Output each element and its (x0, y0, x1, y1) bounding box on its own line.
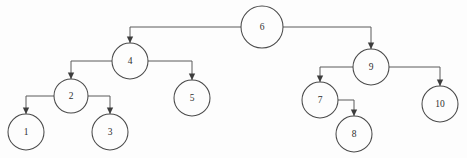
tree-diagram: 64925710138 (0, 0, 467, 158)
arrow-head-icon (189, 74, 195, 81)
tree-edge (283, 27, 374, 49)
arrow-head-icon (23, 108, 29, 115)
edge-line (26, 96, 54, 114)
tree-diagram-canvas: 64925710138 (0, 0, 467, 158)
node-label: 5 (190, 93, 195, 103)
edge-line (130, 27, 241, 43)
node-label: 7 (318, 95, 323, 105)
edge-line (88, 96, 110, 114)
tree-node-3[interactable]: 3 (92, 114, 128, 150)
tree-edge (317, 67, 353, 82)
tree-node-6[interactable]: 6 (241, 6, 283, 48)
edge-line (389, 67, 440, 86)
node-label: 10 (435, 99, 445, 109)
tree-edge (148, 61, 195, 80)
edge-line (283, 27, 371, 49)
edge-line (338, 100, 354, 116)
edge-line (148, 61, 192, 80)
tree-edge (68, 61, 112, 79)
tree-node-5[interactable]: 5 (174, 80, 210, 116)
tree-node-2[interactable]: 2 (54, 79, 88, 113)
arrow-head-icon (68, 73, 74, 80)
arrow-head-icon (351, 110, 357, 117)
tree-node-4[interactable]: 4 (112, 43, 148, 79)
edge-line (320, 67, 353, 82)
tree-node-1[interactable]: 1 (8, 114, 44, 150)
node-label: 4 (128, 56, 133, 66)
arrow-head-icon (127, 37, 133, 44)
tree-edge (338, 100, 357, 116)
nodes-group: 64925710138 (8, 6, 458, 152)
tree-node-7[interactable]: 7 (302, 82, 338, 118)
node-label: 9 (369, 62, 374, 72)
node-label: 6 (260, 22, 265, 32)
node-label: 3 (108, 127, 113, 137)
tree-node-8[interactable]: 8 (336, 116, 372, 152)
tree-edge (88, 96, 113, 114)
arrow-head-icon (437, 80, 443, 87)
tree-edge (23, 96, 54, 114)
edge-line (71, 61, 112, 79)
arrow-head-icon (107, 108, 113, 115)
tree-edge (389, 67, 443, 86)
node-label: 1 (24, 127, 29, 137)
tree-node-10[interactable]: 10 (422, 86, 458, 122)
tree-node-9[interactable]: 9 (353, 49, 389, 85)
arrow-head-icon (368, 43, 374, 50)
arrow-head-icon (317, 76, 323, 83)
node-label: 2 (69, 91, 74, 101)
tree-edge (127, 27, 241, 43)
node-label: 8 (352, 129, 357, 139)
